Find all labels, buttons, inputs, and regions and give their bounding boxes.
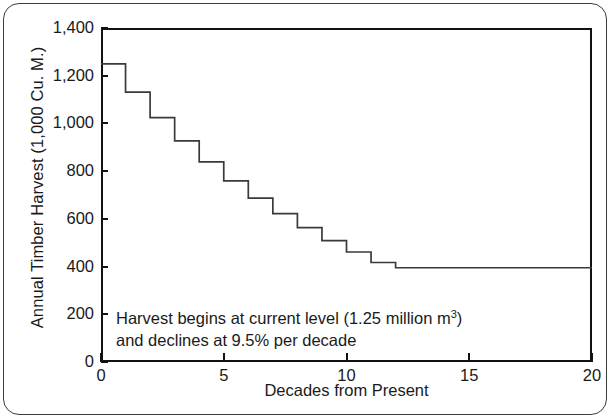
annotation-line-1-suffix: ) <box>457 309 463 327</box>
annotation-line-2: and declines at 9.5% per decade <box>116 330 462 352</box>
y-tick: 200 <box>22 304 94 324</box>
y-tick: 1,400 <box>22 18 94 38</box>
y-tick-label: 1,400 <box>24 18 94 37</box>
harvest-step-line <box>101 64 592 268</box>
y-tick-label: 800 <box>24 161 94 180</box>
annotation-line-1-prefix: Harvest begins at current level (1.25 mi… <box>116 309 451 327</box>
x-tick-mark <box>100 353 102 362</box>
y-tick: 1,000 <box>22 113 94 133</box>
x-tick-mark <box>591 353 593 362</box>
y-tick-label: 400 <box>24 257 94 276</box>
y-tick-label: 1,200 <box>24 66 94 85</box>
x-tick-mark <box>346 353 348 362</box>
x-axis-title: Decades from Present <box>101 381 592 400</box>
y-tick: 600 <box>22 209 94 229</box>
y-axis-ticks: 02004006008001,0001,2001,400 <box>22 28 94 362</box>
x-tick-mark <box>223 353 225 362</box>
chart-annotation: Harvest begins at current level (1.25 mi… <box>116 308 462 352</box>
y-tick: 800 <box>22 161 94 181</box>
chart-figure: Annual Timber Harvest (1,000 Cu. M.) 020… <box>0 0 612 420</box>
y-tick: 400 <box>22 257 94 277</box>
annotation-line-1: Harvest begins at current level (1.25 mi… <box>116 308 462 330</box>
y-tick-label: 1,000 <box>24 113 94 132</box>
y-tick-label: 200 <box>24 304 94 323</box>
x-tick-mark <box>468 353 470 362</box>
y-tick-label: 600 <box>24 209 94 228</box>
y-tick: 1,200 <box>22 66 94 86</box>
